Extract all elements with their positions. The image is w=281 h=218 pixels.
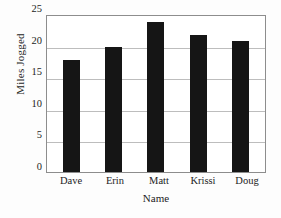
y-tick-label: 0	[22, 162, 42, 172]
plot-area	[46, 15, 266, 173]
y-axis-tick-labels: 25 20 15 10 5 0	[22, 9, 42, 179]
y-tick-label: 15	[22, 67, 42, 77]
bar-chart-figure: Miles Jogged 25 20 15 10 5 0 Dave Erin M…	[0, 0, 281, 218]
bar-matt	[147, 22, 164, 172]
y-tick-label: 25	[22, 4, 42, 14]
bar-dave	[63, 60, 80, 172]
x-tick-label: Doug	[225, 175, 269, 186]
y-tick-label: 10	[22, 99, 42, 109]
bar-erin	[105, 47, 122, 172]
x-axis-tick-labels: Dave Erin Matt Krissi Doug	[46, 175, 266, 186]
x-tick-label: Dave	[49, 175, 93, 186]
y-tick-label: 5	[22, 130, 42, 140]
x-tick-label: Erin	[93, 175, 137, 186]
x-tick-label: Matt	[137, 175, 181, 186]
x-axis-title: Name	[46, 192, 266, 204]
y-tick-label: 20	[22, 36, 42, 46]
bar-series	[47, 16, 265, 172]
bar-doug	[232, 41, 249, 172]
bar-krissi	[190, 35, 207, 172]
x-tick-label: Krissi	[181, 175, 225, 186]
